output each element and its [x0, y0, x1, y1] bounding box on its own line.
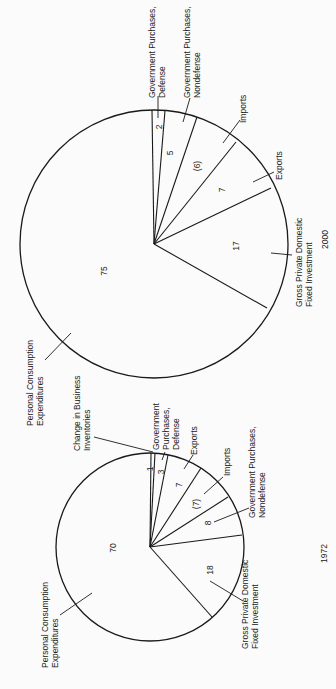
pie-2000-divider-nondef-imp — [154, 117, 197, 244]
leader-1972-imports — [204, 477, 223, 494]
leader-1972-pce — [60, 593, 92, 615]
value-1972-exports: 7 — [174, 482, 184, 487]
leader-1972-cbi — [94, 437, 153, 452]
pie-2000-divider-gpdfi-pce — [154, 244, 267, 308]
pie-2000 — [20, 96, 292, 378]
pie-1972-divider-gpdfi-pce — [150, 547, 212, 617]
value-2000-defense: 2 — [154, 124, 164, 129]
leader-1972-nondefense — [214, 508, 249, 522]
label-2000-defense-2: Defense — [157, 66, 167, 98]
label-1972-gpdfi-1: Gross Private Domestic — [240, 559, 250, 649]
leader-2000-gpdfi — [271, 253, 292, 255]
label-2000-defense-1: Government Purchases, — [147, 6, 157, 98]
value-2000-nondefense: 5 — [165, 150, 175, 155]
value-1972-imports: (7) — [191, 499, 201, 510]
label-1972-imports: Imports — [222, 448, 232, 476]
year-label-2000: 2000 — [320, 230, 330, 249]
label-1972-cbi-1: Change in Business — [72, 375, 82, 451]
leader-2000-nondefense — [183, 98, 190, 122]
pie-2000-divider-def-nondef — [154, 111, 165, 245]
label-2000-exports: Exports — [274, 151, 284, 180]
pie-1972-labels: Change in Business Inventories Governmen… — [40, 375, 329, 668]
value-1972-pce: 70 — [108, 543, 118, 553]
value-1972-gpdfi: 18 — [205, 565, 215, 575]
pie-1972-values: 1 3 7 (7) 8 18 70 — [108, 466, 215, 574]
pie-1972-divider-imp-nondef — [150, 497, 228, 547]
leader-1972-gpdfi — [210, 581, 243, 601]
label-2000-imports: Imports — [238, 95, 248, 123]
label-2000-nondefense-1: Government Purchases, — [182, 6, 192, 98]
leader-2000-exports — [253, 172, 274, 182]
label-1972-defense-1: Government — [151, 403, 161, 450]
value-2000-pce: 75 — [99, 266, 109, 276]
label-2000-pce-2: Expenditures — [35, 376, 45, 426]
label-2000-gpdfi-1: Gross Private Domestic — [294, 217, 304, 307]
label-2000-gpdfi-2: Fixed Investment — [304, 242, 314, 307]
label-1972-exports: Exports — [189, 426, 199, 455]
value-1972-cbi: 1 — [145, 466, 155, 471]
label-2000-pce-1: Personal Consumption — [25, 340, 35, 426]
label-1972-cbi-2: Inventories — [82, 409, 92, 451]
pie-2000-divider-exp-gpdfi — [154, 188, 271, 244]
value-1972-nondefense: 8 — [203, 520, 213, 525]
pie-chart-figure: 2 5 (6) 7 17 75 Government Purchases, De… — [0, 0, 336, 689]
label-1972-defense-2: Purchases, — [161, 407, 171, 450]
label-1972-defense-3: Defense — [171, 418, 181, 450]
pie-1972-divider-nondef-gpdfi — [150, 535, 242, 547]
year-label-1972: 1972 — [319, 544, 329, 563]
value-2000-gpdfi: 17 — [231, 241, 241, 251]
value-1972-defense: 3 — [156, 469, 166, 474]
label-1972-pce-2: Expenditures — [50, 618, 60, 668]
leader-1972-exports — [184, 455, 193, 469]
label-1972-nondefense-2: Nondefense — [257, 472, 267, 518]
value-2000-imports: (6) — [192, 161, 202, 172]
label-1972-gpdfi-2: Fixed Investment — [250, 584, 260, 649]
label-1972-pce-1: Personal Consumption — [40, 582, 50, 668]
pie-2000-labels: Government Purchases, Defense Government… — [25, 6, 330, 426]
label-1972-nondefense-1: Government Purchases, — [247, 426, 257, 518]
value-2000-exports: 7 — [217, 187, 227, 192]
label-2000-nondefense-2: Nondefense — [192, 52, 202, 98]
